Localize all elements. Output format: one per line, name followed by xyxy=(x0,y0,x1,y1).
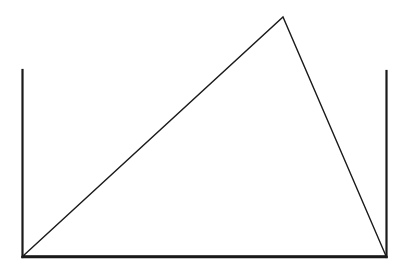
diagram-canvas xyxy=(0,0,406,272)
triangle xyxy=(23,17,386,256)
container-frame xyxy=(23,70,387,257)
